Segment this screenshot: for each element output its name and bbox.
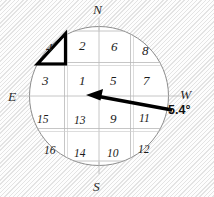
cardinal-west-label: W <box>180 87 193 102</box>
grid-cell-r4c1: 16 <box>44 144 56 156</box>
cardinal-east-label: E <box>7 89 17 104</box>
figure-canvas: 4 2 6 8 3 1 5 7 15 13 9 11 16 14 10 12 N… <box>0 0 214 197</box>
grid-cell-r1c4: 8 <box>142 43 149 58</box>
grid-cell-r1c2: 2 <box>79 38 86 53</box>
grid-cell-r2c1: 3 <box>41 73 49 88</box>
grid-cell-r2c3: 5 <box>110 73 117 88</box>
grid-cell-r3c3: 9 <box>110 111 117 126</box>
cardinal-south-label: S <box>93 179 100 194</box>
cardinal-north-label: N <box>92 2 103 17</box>
grid-cell-r1c1: 4 <box>46 40 53 55</box>
grid-cell-r2c2: 1 <box>79 73 86 88</box>
grid-cell-r3c2: 13 <box>74 114 86 126</box>
grid-cell-r4c3: 10 <box>107 147 119 159</box>
grid-cell-r4c4: 12 <box>138 143 150 155</box>
grid-cell-r4c2: 14 <box>74 147 86 159</box>
grid-cell-r2c4: 7 <box>143 73 150 88</box>
grid-cell-r3c1: 15 <box>37 113 49 125</box>
grid-cell-r3c4: 11 <box>139 112 150 124</box>
angle-label: 5.4° <box>168 103 190 117</box>
grid-cell-r1c3: 6 <box>111 39 118 54</box>
compass-grid-figure: 4 2 6 8 3 1 5 7 15 13 9 11 16 14 10 12 N… <box>0 0 214 197</box>
